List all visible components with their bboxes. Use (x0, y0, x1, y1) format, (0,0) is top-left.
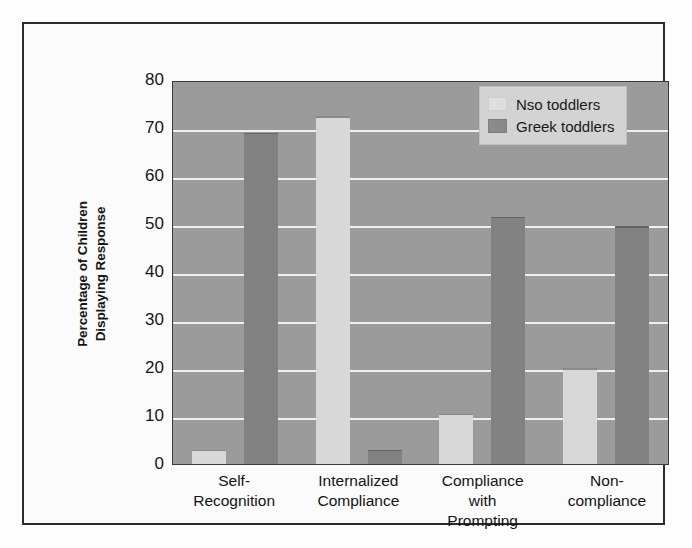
y-axis-title: Percentage of Children Displaying Respon… (70, 144, 114, 404)
y-axis-title-line-2: Displaying Response (92, 207, 110, 342)
legend-swatch-greek (488, 119, 507, 133)
y-tick-label: 80 (116, 70, 164, 90)
bar-nso[interactable] (192, 450, 226, 464)
bar-greek[interactable] (368, 450, 402, 464)
legend-label: Nso toddlers (516, 96, 600, 113)
legend-swatch-nso (488, 97, 507, 111)
bar-nso[interactable] (316, 116, 350, 464)
x-category-label-line: Prompting (423, 511, 543, 531)
y-tick-label: 0 (116, 454, 164, 474)
bar-top-edge (192, 450, 226, 452)
x-category-label-line: Compliance (298, 491, 418, 511)
legend-item[interactable]: Greek toddlers (488, 115, 614, 137)
y-tick-label: 70 (116, 118, 164, 138)
bar-top-edge (491, 217, 525, 219)
y-tick-label: 30 (116, 310, 164, 330)
x-category-label-line: compliance (547, 491, 667, 511)
figure: Percentage of Children Displaying Respon… (0, 0, 692, 548)
bar-top-edge (244, 133, 278, 135)
bar-top-edge (316, 116, 350, 118)
legend: Nso toddlersGreek toddlers (479, 86, 627, 145)
x-axis-category-labels: Self-RecognitionInternalizedComplianceCo… (172, 471, 669, 543)
bar-greek[interactable] (491, 217, 525, 464)
x-category-label-line: Non- (547, 471, 667, 491)
y-tick-label: 60 (116, 166, 164, 186)
bar-greek[interactable] (244, 133, 278, 464)
legend-item[interactable]: Nso toddlers (488, 93, 614, 115)
bar-group (173, 82, 297, 464)
x-category-label-line: Internalized (298, 471, 418, 491)
bar-top-edge (368, 450, 402, 452)
x-category-label: Non-compliance (545, 471, 669, 543)
y-tick-label: 20 (116, 358, 164, 378)
y-tick-label: 50 (116, 214, 164, 234)
bar-group (297, 82, 421, 464)
x-category-label-line: Self- (174, 471, 294, 491)
bar-top-edge (563, 368, 597, 370)
y-tick-label: 40 (116, 262, 164, 282)
legend-label: Greek toddlers (516, 118, 614, 135)
x-category-label: InternalizedCompliance (296, 471, 420, 543)
x-category-label-line: with (423, 491, 543, 511)
y-tick-label: 10 (116, 406, 164, 426)
bar-top-edge (439, 414, 473, 416)
x-category-label-line: Recognition (174, 491, 294, 511)
bar-nso[interactable] (439, 414, 473, 464)
x-category-label-line: Compliance (423, 471, 543, 491)
y-axis-title-line-1: Percentage of Children (74, 201, 92, 347)
x-category-label: CompliancewithPrompting (421, 471, 545, 543)
x-category-label: Self-Recognition (172, 471, 296, 543)
bar-greek[interactable] (615, 226, 649, 464)
bar-nso[interactable] (563, 368, 597, 464)
y-axis-tick-labels: 80706050403020100 (116, 81, 164, 465)
bar-top-edge (615, 226, 649, 228)
figure-border: Percentage of Children Displaying Respon… (22, 22, 665, 525)
